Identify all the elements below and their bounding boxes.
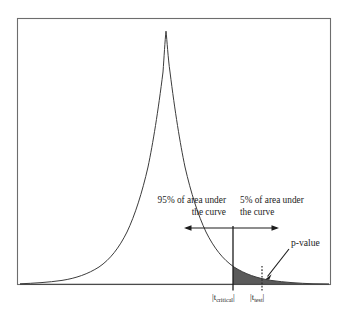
right-area-label-line1: 5% of area under xyxy=(240,195,305,205)
left-area-label-line1: 95% of area under xyxy=(158,195,227,205)
t-test-bar-right: | xyxy=(263,292,265,302)
right-area-label-line2: the curve xyxy=(240,207,274,217)
t-critical-bar-right: | xyxy=(233,292,235,302)
left-area-label-line2: the curve xyxy=(192,207,226,217)
p-value-label: p-value xyxy=(291,237,320,248)
svg-text:|ttest|: |ttest| xyxy=(250,292,265,303)
t-test-tick-label: |ttest| xyxy=(250,292,265,303)
t-critical-tick-label: |tcritical| xyxy=(212,292,235,303)
figure-frame xyxy=(18,19,331,285)
t-test-sub: test xyxy=(254,297,263,303)
distribution-figure: 95% of area under the curve 5% of area u… xyxy=(0,0,346,317)
t-critical-sub: critical xyxy=(216,297,233,303)
svg-text:|tcritical|: |tcritical| xyxy=(212,292,235,303)
figure-canvas: 95% of area under the curve 5% of area u… xyxy=(0,0,346,317)
